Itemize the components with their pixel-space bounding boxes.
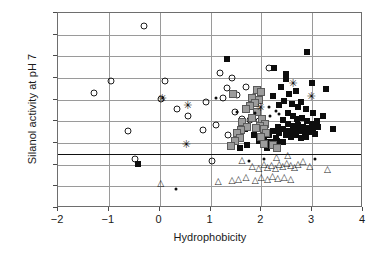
x-tick-mark	[311, 207, 312, 211]
y-tick-mark	[53, 77, 57, 78]
data-point-open-circle	[220, 94, 227, 101]
data-point-filled-square	[270, 93, 276, 99]
y-tick-mark	[53, 142, 57, 143]
gridline-horizontal	[58, 35, 361, 36]
data-point-gray-square	[252, 124, 260, 132]
x-tick-mark	[159, 207, 160, 211]
data-point-filled-square	[224, 56, 230, 62]
x-tick-mark	[260, 207, 261, 211]
x-tick-label: −2	[37, 214, 77, 225]
data-point-open-triangle: △	[287, 174, 294, 183]
data-point-open-triangle: △	[239, 156, 246, 165]
data-point-star: ✳	[288, 78, 297, 89]
data-point-open-circle	[108, 78, 115, 85]
data-point-filled-square	[303, 134, 309, 140]
y-tick-mark	[53, 55, 57, 56]
data-point-filled-square	[312, 131, 318, 137]
data-point-filled-square	[330, 126, 336, 132]
data-point-open-triangle: △	[306, 161, 313, 170]
y-tick-mark	[53, 185, 57, 186]
x-tick-label: 4	[342, 214, 375, 225]
data-point-filled-square	[303, 106, 309, 112]
data-point-filled-square	[289, 101, 295, 107]
data-point-open-circle	[203, 98, 210, 105]
plot-area: △△△△△△△△△△△△△△△△△△△△△△△△△△△△△△✳✳✳✳✳✳	[57, 12, 362, 207]
y-axis-title: Silanol activity at pH 7	[26, 24, 38, 194]
data-point-open-circle	[216, 69, 223, 76]
data-point-open-circle	[174, 106, 181, 113]
data-point-filled-square	[323, 86, 329, 92]
data-point-gray-square	[229, 90, 237, 98]
data-point-small-dot	[313, 158, 316, 161]
data-point-open-triangle: △	[157, 178, 164, 187]
data-point-gray-square	[257, 88, 265, 96]
gridline-horizontal	[58, 78, 361, 79]
gridline-horizontal	[58, 186, 361, 187]
data-point-filled-square	[251, 132, 257, 138]
y-tick-mark	[53, 12, 57, 13]
data-point-small-dot	[267, 106, 270, 109]
gridline-horizontal	[58, 56, 361, 57]
data-point-gray-square	[248, 114, 256, 122]
x-tick-mark	[108, 207, 109, 211]
gridline-horizontal	[58, 165, 361, 166]
x-tick-mark	[57, 207, 58, 211]
gridline-vertical	[109, 13, 110, 206]
data-point-small-dot	[262, 158, 265, 161]
data-point-open-triangle: △	[215, 177, 222, 186]
data-point-open-circle	[228, 75, 235, 82]
x-tick-label: −1	[88, 214, 128, 225]
data-point-open-circle	[125, 127, 132, 134]
y-tick-mark	[53, 164, 57, 165]
data-point-star: ✳	[181, 138, 190, 149]
data-point-star: ✳	[307, 91, 316, 102]
data-point-small-dot	[274, 109, 277, 112]
data-point-small-dot	[235, 110, 238, 113]
data-point-star: ✳	[183, 99, 192, 110]
data-point-filled-square	[298, 99, 304, 105]
data-point-small-dot	[247, 160, 250, 163]
data-point-filled-square	[320, 113, 326, 119]
data-point-small-dot	[278, 112, 281, 115]
x-tick-mark	[210, 207, 211, 211]
y-tick-mark	[53, 34, 57, 35]
data-point-filled-square	[135, 161, 141, 167]
data-point-open-circle	[141, 23, 148, 30]
data-point-filled-square	[276, 102, 282, 108]
data-point-gray-square	[227, 142, 235, 150]
data-point-filled-square	[295, 104, 301, 110]
data-point-filled-square	[293, 88, 299, 94]
scatter-chart: Silanol activity at pH 7 Hydrophobicity …	[0, 0, 375, 254]
data-point-open-triangle: △	[252, 175, 259, 184]
data-point-open-triangle: △	[243, 172, 250, 181]
reference-line	[58, 154, 361, 155]
data-point-open-circle	[184, 113, 191, 120]
data-point-open-circle	[212, 121, 219, 128]
data-point-open-triangle: △	[324, 165, 331, 174]
y-tick-mark	[53, 120, 57, 121]
x-tick-label: 0	[139, 214, 179, 225]
x-tick-mark	[362, 207, 363, 211]
x-axis-title: Hydrophobicity	[57, 231, 363, 243]
gridline-vertical	[211, 13, 212, 206]
data-point-filled-square	[304, 49, 310, 55]
data-point-open-circle	[199, 127, 206, 134]
data-point-filled-square	[271, 65, 277, 71]
data-point-filled-square	[244, 142, 250, 148]
data-point-open-triangle: △	[284, 151, 291, 160]
data-point-open-circle	[90, 90, 97, 97]
data-point-star: ✳	[256, 102, 265, 113]
y-tick-mark	[53, 99, 57, 100]
data-point-open-triangle: △	[235, 174, 242, 183]
data-point-small-dot	[269, 115, 272, 118]
data-point-gray-square	[260, 140, 268, 148]
x-tick-label: 3	[291, 214, 331, 225]
data-point-small-dot	[174, 187, 177, 190]
data-point-filled-square	[237, 145, 243, 151]
x-tick-label: 1	[190, 214, 230, 225]
data-point-open-circle	[243, 83, 250, 90]
data-point-open-circle	[161, 78, 168, 85]
data-point-small-dot	[214, 96, 217, 99]
data-point-filled-square	[315, 124, 321, 130]
data-point-open-triangle: △	[273, 152, 280, 161]
